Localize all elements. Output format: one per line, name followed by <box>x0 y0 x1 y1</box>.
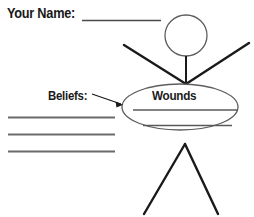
figure-right-leg <box>185 144 218 214</box>
worksheet-canvas: Your Name: Beliefs: Wounds <box>0 0 254 217</box>
beliefs-field-label: Beliefs: <box>48 88 87 103</box>
figure-left-leg <box>144 144 185 214</box>
stick-figure-diagram <box>0 0 254 217</box>
figure-head <box>165 15 207 56</box>
wounds-field-label: Wounds <box>152 88 196 103</box>
name-field-label: Your Name: <box>7 5 75 21</box>
